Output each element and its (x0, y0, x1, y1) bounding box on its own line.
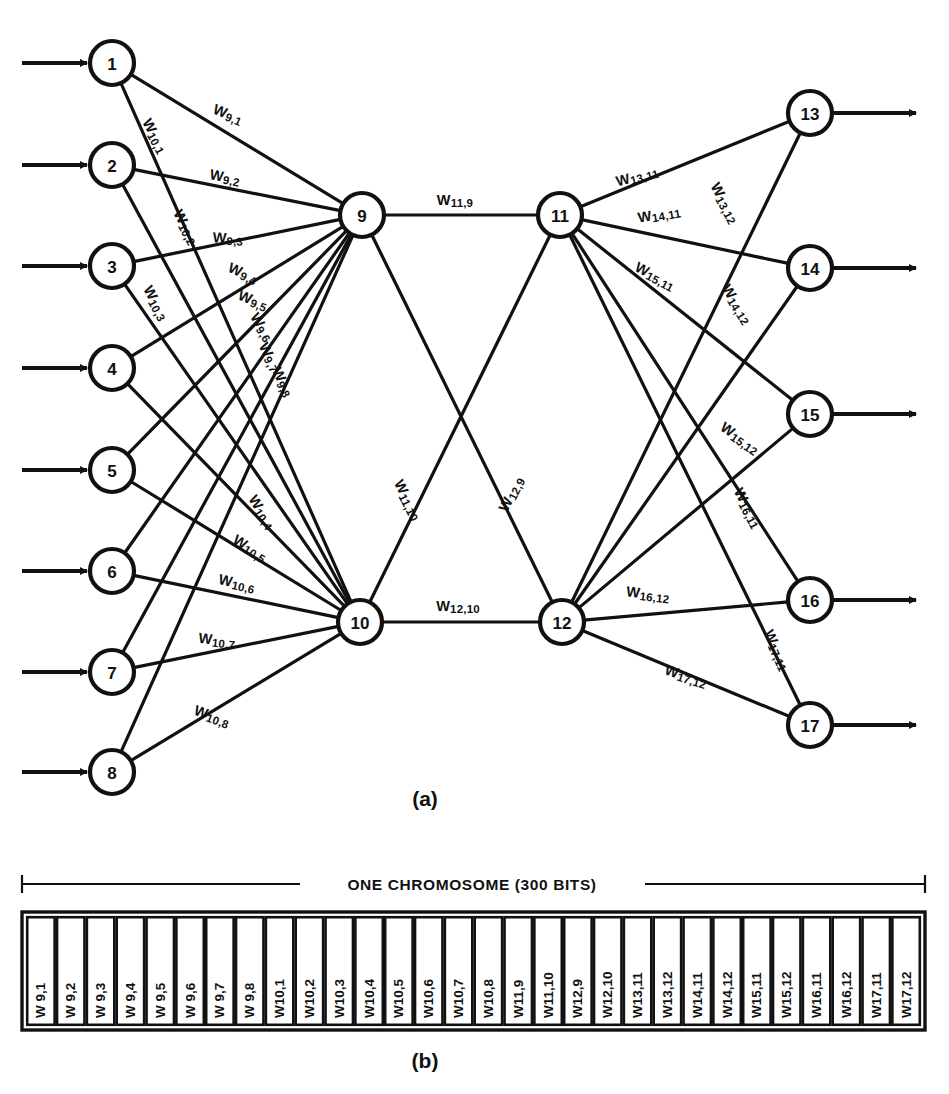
weight-label-text: W15,12 (717, 419, 763, 458)
chromosome-cell-label: W 9,1 (33, 982, 48, 1018)
node-label-12: 12 (553, 614, 572, 633)
weight-label-W9-1: W9,1 (210, 101, 245, 128)
node-12[interactable]: 12 (540, 600, 584, 644)
chromosome-cell[interactable]: W 9,1 (27, 917, 54, 1025)
chromosome-cell[interactable]: W10,8 (475, 917, 502, 1025)
chromosome-cell-label: W13,12 (660, 971, 675, 1018)
chromosome-cell[interactable]: W 9,6 (176, 917, 203, 1025)
chromosome-cell[interactable]: W16,12 (833, 917, 860, 1025)
chromosome-cell[interactable]: W16,11 (803, 917, 830, 1025)
node-11[interactable]: 11 (538, 193, 582, 237)
figure-container: 1234567891011121314151617 W9,1W10,1W9,2W… (0, 0, 949, 1094)
node-label-10: 10 (351, 614, 370, 633)
chromosome-panel: ONE CHROMOSOME (300 BITS) W 9,1W 9,2W 9,… (22, 875, 925, 1030)
chromosome-cell[interactable]: W 9,2 (57, 917, 84, 1025)
chromosome-cell[interactable]: W10,1 (266, 917, 293, 1025)
weight-label-text: W10,8 (192, 702, 233, 731)
node-label-1: 1 (107, 55, 116, 74)
weight-label-W17-12: W17,12 (662, 662, 709, 692)
weight-label-W13-12: W13,12 (707, 180, 743, 227)
chromosome-cell[interactable]: W10,7 (445, 917, 472, 1025)
chromosome-cell[interactable]: W10,6 (415, 917, 442, 1025)
node-label-5: 5 (107, 462, 116, 481)
chromosome-cell[interactable]: W 9,7 (206, 917, 233, 1025)
node-label-13: 13 (801, 105, 820, 124)
weight-label-text: W9,1 (210, 101, 245, 128)
chromosome-cell[interactable]: W10,3 (326, 917, 353, 1025)
weight-label-text: W14,12 (718, 281, 756, 327)
chromosome-cell-label: W10,4 (362, 978, 377, 1018)
node-2[interactable]: 2 (90, 143, 134, 187)
node-label-4: 4 (107, 360, 117, 379)
panel-a-caption: (a) (412, 787, 438, 810)
node-10[interactable]: 10 (338, 600, 382, 644)
node-label-2: 2 (107, 157, 116, 176)
node-6[interactable]: 6 (90, 549, 134, 593)
chromosome-cell-label: W 9,3 (93, 982, 108, 1018)
node-1[interactable]: 1 (90, 41, 134, 85)
weight-label-text: W17,12 (662, 662, 709, 692)
node-16[interactable]: 16 (788, 578, 832, 622)
chromosome-cell[interactable]: W15,12 (773, 917, 800, 1025)
chromosome-cell[interactable]: W 9,3 (87, 917, 114, 1025)
chromosome-cell-label: W 9,4 (123, 982, 138, 1018)
chromosome-cell[interactable]: W15,11 (743, 917, 770, 1025)
chromosome-cell[interactable]: W12,10 (594, 917, 621, 1025)
node-7[interactable]: 7 (90, 650, 134, 694)
chromosome-cell-label: W 9,5 (153, 982, 168, 1018)
chromosome-cell-label: W14,12 (720, 971, 735, 1018)
chromosome-cell[interactable]: W13,11 (624, 917, 651, 1025)
weight-label-W10-8: W10,8 (192, 702, 233, 731)
node-5[interactable]: 5 (90, 448, 134, 492)
chromosome-cell[interactable]: W10,5 (385, 917, 412, 1025)
chromosome-cell[interactable]: W 9,5 (147, 917, 174, 1025)
chromosome-cell[interactable]: W13,12 (654, 917, 681, 1025)
node-label-8: 8 (107, 764, 116, 783)
node-17[interactable]: 17 (788, 703, 832, 747)
weight-label-text: W16,11 (730, 485, 765, 531)
chromosome-cell[interactable]: W10,4 (355, 917, 382, 1025)
weight-label-W11-9: W11,9 (437, 192, 473, 209)
chromosome-cell[interactable]: W11,9 (505, 917, 532, 1025)
chromosome-cell-label: W10,5 (391, 978, 406, 1018)
node-4[interactable]: 4 (90, 346, 134, 390)
weight-label-W10-2: W10,2 (169, 207, 201, 248)
edge-9-12 (372, 235, 553, 603)
node-13[interactable]: 13 (788, 91, 832, 135)
weight-label-text: W9,3 (212, 229, 243, 248)
weight-label-text: W10,3 (139, 283, 171, 324)
chromosome-cell[interactable]: W12,9 (564, 917, 591, 1025)
chromosome-cell-label: W17,12 (899, 971, 914, 1018)
chromosome-cell[interactable]: W17,12 (892, 917, 919, 1025)
chromosome-cell-label: W11,10 (541, 972, 556, 1018)
chromosome-cell-label: W16,11 (809, 972, 824, 1018)
chromosome-cell-label: W 9,2 (63, 983, 78, 1018)
weight-label-text: W10,5 (230, 531, 271, 565)
chromosome-cell-label: W15,11 (749, 972, 764, 1018)
chromosome-cell-label: W14,11 (690, 972, 705, 1018)
node-9[interactable]: 9 (340, 193, 384, 237)
node-label-14: 14 (801, 260, 820, 279)
chromosome-cell[interactable]: W 9,4 (117, 917, 144, 1025)
chromosome-cell[interactable]: W14,11 (684, 917, 711, 1025)
chromosome-cell-label: W15,12 (779, 971, 794, 1018)
chromosome-cell[interactable]: W 9,8 (236, 917, 263, 1025)
node-15[interactable]: 15 (788, 392, 832, 436)
weight-label-text: W10,2 (169, 207, 201, 248)
node-8[interactable]: 8 (90, 750, 134, 794)
chromosome-cell[interactable]: W10,2 (296, 917, 323, 1025)
chromosome-cells: W 9,1W 9,2W 9,3W 9,4W 9,5W 9,6W 9,7W 9,8… (27, 917, 920, 1025)
edge-6-9 (125, 233, 350, 553)
weight-label-text: W16,12 (625, 583, 670, 605)
chromosome-cell[interactable]: W14,12 (713, 917, 740, 1025)
node-label-6: 6 (107, 563, 116, 582)
weight-label-W10-7: W10,7 (198, 630, 237, 651)
chromosome-cell-label: W 9,6 (183, 982, 198, 1018)
chromosome-cell[interactable]: W11,10 (534, 917, 561, 1025)
node-14[interactable]: 14 (788, 246, 832, 290)
node-3[interactable]: 3 (90, 244, 134, 288)
weight-label-W9-5: W9,5 (235, 287, 270, 314)
weight-label-text: W17,11 (760, 627, 793, 674)
chromosome-cell[interactable]: W17,11 (863, 917, 890, 1025)
chromosome-cell-label: W12,9 (570, 979, 585, 1018)
